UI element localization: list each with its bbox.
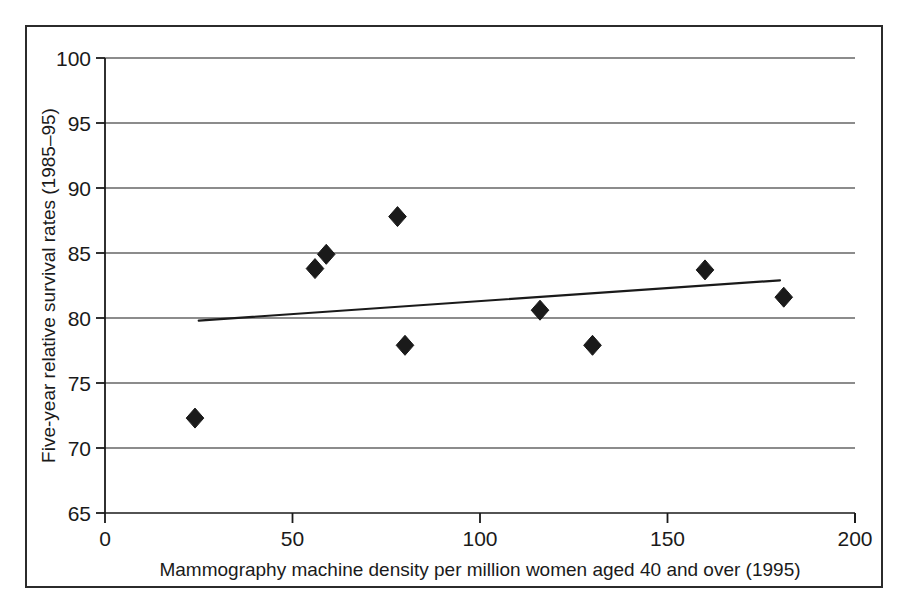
y-tick-label-70: 70: [68, 437, 91, 460]
y-tick-label-95: 95: [68, 112, 91, 135]
trend-line-segment: [199, 280, 780, 320]
y-axis-title: Five-year relative survival rates (1985–…: [38, 108, 59, 463]
y-tick-label-90: 90: [68, 177, 91, 200]
trend-line: [199, 280, 780, 320]
data-point-4: [396, 335, 414, 355]
x-tick-label-200: 200: [837, 527, 872, 550]
data-point-8: [775, 287, 793, 307]
x-axis-title: Mammography machine density per million …: [159, 559, 800, 580]
data-points-group: [186, 207, 792, 429]
figure-container: 65707580859095100 050100150200 Mammograp…: [0, 0, 906, 614]
data-point-0: [186, 408, 204, 428]
x-tick-label-100: 100: [462, 527, 497, 550]
x-tick-label-50: 50: [281, 527, 304, 550]
axis-titles-group: Mammography machine density per million …: [38, 108, 801, 580]
data-point-6: [584, 335, 602, 355]
y-tick-label-80: 80: [68, 307, 91, 330]
x-tick-label-150: 150: [650, 527, 685, 550]
axis-lines-group: [105, 58, 855, 523]
data-point-7: [696, 260, 714, 280]
gridlines-group: [105, 58, 855, 513]
y-tick-group: 65707580859095100: [56, 47, 105, 525]
y-tick-label-85: 85: [68, 242, 91, 265]
x-tick-group: 050100150200: [99, 513, 872, 550]
x-tick-label-0: 0: [99, 527, 111, 550]
data-point-1: [306, 259, 324, 279]
y-tick-label-75: 75: [68, 372, 91, 395]
data-point-3: [389, 207, 407, 227]
data-point-2: [317, 244, 335, 264]
data-point-5: [531, 300, 549, 320]
y-tick-label-65: 65: [68, 502, 91, 525]
scatter-plot: 65707580859095100 050100150200 Mammograp…: [0, 0, 906, 614]
y-tick-label-100: 100: [56, 47, 91, 70]
